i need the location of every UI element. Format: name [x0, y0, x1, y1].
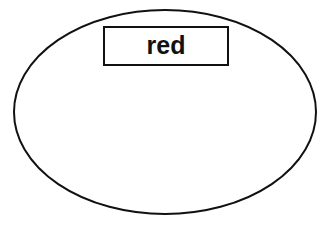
label-box-group[interactable]: red: [104, 27, 228, 65]
diagram-canvas: red: [0, 0, 329, 228]
label-text: red: [147, 31, 186, 59]
diagram-svg: red: [0, 0, 329, 228]
